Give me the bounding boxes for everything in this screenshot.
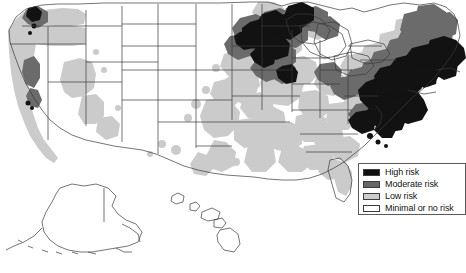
legend-label-moderate-risk: Moderate risk [385,180,438,189]
legend-label-high-risk: High risk [385,168,419,177]
legend-label-minimal-risk: Minimal or no risk [385,204,454,213]
legend-label-low-risk: Low risk [385,192,417,201]
high-risk-swatch [363,169,380,176]
minimal-risk-swatch [363,205,380,212]
moderate-risk-swatch [363,181,380,188]
legend-item-low-risk: Low risk [363,190,462,202]
us-risk-map-figure: High risk Moderate risk Low risk Minimal… [0,0,466,273]
legend-item-moderate-risk: Moderate risk [363,178,462,190]
legend-item-high-risk: High risk [363,166,462,178]
map-canvas [0,0,466,273]
legend-item-minimal-risk: Minimal or no risk [363,202,462,214]
low-risk-swatch [363,193,380,200]
risk-legend: High risk Moderate risk Low risk Minimal… [358,163,466,215]
